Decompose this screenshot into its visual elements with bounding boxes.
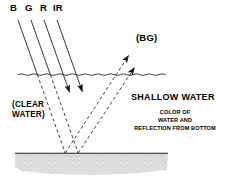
water-surface-line: [18, 74, 165, 76]
ray-ir-above: [57, 20, 76, 75]
detail-label-line2: WATER AND: [129, 116, 221, 124]
ray-g-above: [31, 20, 50, 75]
ray-b-above: [18, 20, 37, 75]
band-label-ir: IR: [53, 3, 63, 13]
shallow-water-label: SHALLOW WATER: [131, 93, 215, 102]
clear-water-label: (CLEAR WATER): [12, 100, 45, 120]
water-penetration-diagram: B G R IR (BG) (CLEAR WATER) SHALLOW WATE…: [0, 0, 225, 189]
reflected-rays: [65, 56, 134, 154]
sediment-layer: [15, 154, 168, 175]
backscatter-bg-label: (BG): [136, 33, 157, 43]
clear-water-label-line1: (CLEAR: [12, 100, 45, 110]
rays-absorbed-r-ir: [63, 75, 82, 93]
band-label-b: B: [10, 3, 17, 13]
detail-label-line3: REFLECTION FROM BOTTOM: [129, 124, 221, 132]
reflected-ray-outer: [78, 68, 134, 153]
incoming-rays-above-surface: [18, 20, 76, 75]
ray-g-below: [50, 75, 78, 153]
band-label-r: R: [40, 3, 47, 13]
clear-water-label-line2: WATER): [12, 110, 45, 120]
detail-label-line1: COLOR OF: [129, 108, 221, 116]
ray-ir-arrow: [76, 75, 82, 92]
shallow-water-detail-label: COLOR OF WATER AND REFLECTION FROM BOTTO…: [129, 108, 221, 132]
band-label-g: G: [25, 3, 33, 13]
ray-r-above: [44, 20, 63, 75]
ray-r-arrow: [63, 75, 69, 93]
